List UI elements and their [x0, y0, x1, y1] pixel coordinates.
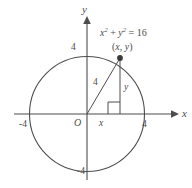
x-axis-label: x [182, 108, 187, 119]
circle-equation-diagram: y x 4 -4 -4 4 O x2 + y2 = 16 (x, y) 4 y … [0, 0, 192, 188]
point-paren-close: ) [129, 41, 132, 52]
radius-segment [87, 58, 120, 114]
origin-label: O [74, 118, 81, 128]
point-coordinate-label: (x, y) [112, 42, 133, 52]
point-marker [117, 55, 123, 61]
y-tick-label-minus4: -4 [77, 167, 85, 177]
y-axis-arrowhead [83, 16, 91, 24]
y-axis [83, 16, 91, 180]
x-axis [14, 110, 179, 118]
diagram-canvas [0, 0, 192, 188]
y-axis-label: y [82, 4, 87, 15]
right-angle-marker [108, 102, 120, 114]
circle-equation-label: x2 + y2 = 16 [100, 27, 147, 38]
equation-plus: + [108, 27, 119, 38]
y-tick-label-4: 4 [71, 43, 76, 53]
x-axis-arrowhead [171, 110, 179, 118]
horizontal-leg-label: x [99, 119, 103, 129]
vertical-leg-label: y [124, 83, 128, 93]
x-tick-label-4: 4 [142, 120, 147, 130]
hypotenuse-length-label: 4 [93, 78, 98, 88]
equation-suffix: = 16 [126, 27, 147, 38]
x-tick-label-minus4: -4 [19, 120, 27, 130]
